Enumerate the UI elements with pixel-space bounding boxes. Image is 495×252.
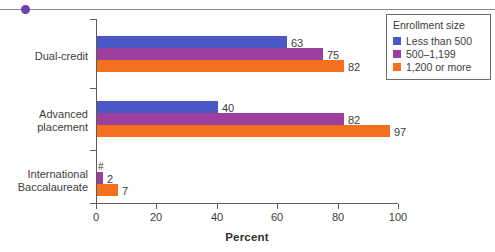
x-axis-tick <box>398 204 399 209</box>
legend-swatch-icon <box>393 37 401 45</box>
x-axis-tick <box>217 204 218 209</box>
bar-international-baccalaureate-500-1199 <box>97 172 103 184</box>
x-axis-label-20: 20 <box>150 211 162 223</box>
y-axis-tick <box>90 150 96 151</box>
category-label-advanced-placement: Advanced placement <box>0 108 88 134</box>
legend-label: 500–1,199 <box>406 48 456 60</box>
x-axis-title: Percent <box>96 231 398 243</box>
bar-chart: Dual-credit Advanced placement Internati… <box>0 0 495 252</box>
bar-value-advanced-placement-1200-or-more: 97 <box>394 126 406 138</box>
y-axis-tick <box>90 19 96 20</box>
bar-dual-credit-1200-or-more <box>97 60 344 72</box>
bar-value-dual-credit-1200-or-more: 82 <box>348 61 360 73</box>
legend-swatch-icon <box>393 50 401 58</box>
x-axis-tick <box>338 204 339 209</box>
category-label-line: Dual-credit <box>0 50 88 63</box>
legend-item-less-than-500: Less than 500 <box>393 34 490 47</box>
bar-advanced-placement-500-1199 <box>97 113 344 125</box>
category-label-dual-credit: Dual-credit <box>0 50 88 63</box>
x-axis-label-60: 60 <box>271 211 283 223</box>
x-axis-label-0: 0 <box>93 211 99 223</box>
category-label-line: placement <box>0 121 88 134</box>
category-label-line: Advanced <box>0 108 88 121</box>
category-label-line: International <box>0 168 88 181</box>
legend: Enrollment size Less than 500 500–1,199 … <box>386 14 491 80</box>
category-label-line: Baccalaureate <box>0 181 88 194</box>
bar-dual-credit-less-than-500 <box>97 36 287 48</box>
legend-item-1200-or-more: 1,200 or more <box>393 60 490 73</box>
x-axis-tick <box>277 204 278 209</box>
x-axis-tick <box>156 204 157 209</box>
x-axis-label-80: 80 <box>332 211 344 223</box>
bar-advanced-placement-less-than-500 <box>97 101 218 113</box>
bar-advanced-placement-1200-or-more <box>97 125 390 137</box>
bar-value-international-baccalaureate-1200-or-more: 7 <box>122 185 128 197</box>
legend-title: Enrollment size <box>393 19 490 31</box>
x-axis-label-100: 100 <box>389 211 407 223</box>
x-axis-tick <box>96 204 97 209</box>
y-axis-tick <box>90 88 96 89</box>
legend-label: 1,200 or more <box>406 61 471 73</box>
bar-dual-credit-500-1199 <box>97 48 323 60</box>
x-axis-line <box>96 203 398 204</box>
legend-item-500-1199: 500–1,199 <box>393 47 490 60</box>
bar-international-baccalaureate-1200-or-more <box>97 184 118 196</box>
bar-value-international-baccalaureate-less-than-500: # <box>98 161 104 172</box>
x-axis-label-40: 40 <box>211 211 223 223</box>
legend-swatch-icon <box>393 63 401 71</box>
legend-label: Less than 500 <box>406 35 472 47</box>
category-label-international-baccalaureate: International Baccalaureate <box>0 168 88 194</box>
